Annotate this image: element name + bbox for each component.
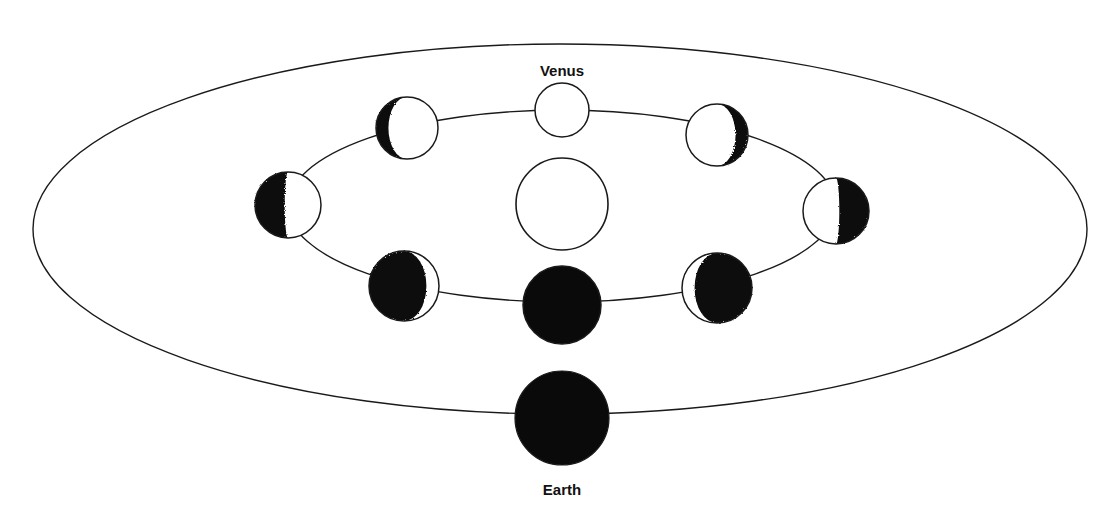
earth [515, 371, 609, 465]
venus-phase-new [523, 266, 601, 344]
venus-phase-lower-right [682, 253, 752, 323]
earth-label: Earth [543, 481, 581, 498]
sun [516, 158, 608, 250]
venus-label: Venus [540, 62, 584, 79]
venus-phase-upper-right [686, 104, 748, 166]
venus-phase-upper-left [376, 97, 438, 159]
venus-phase-right [803, 178, 869, 244]
venus-phase-lower-left [369, 251, 439, 321]
venus-phase-full [535, 83, 589, 137]
venus-phases-diagram [0, 0, 1099, 527]
venus-phase-left [255, 172, 321, 238]
